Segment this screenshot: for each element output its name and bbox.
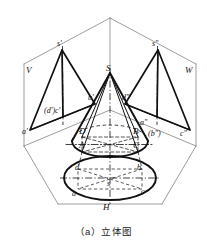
label-top-a: a: [72, 190, 76, 198]
label-front-dc: (d')c': [44, 107, 60, 115]
cone-generatrix-left: [72, 73, 110, 141]
label-side-c: c": [180, 130, 187, 138]
figure-caption: （a）立体图: [0, 224, 207, 238]
cone-generatrix-right: [110, 73, 148, 141]
label-apex-front: s': [57, 40, 62, 48]
label-side-d: d": [122, 94, 129, 102]
label-plane-h: H: [103, 203, 110, 212]
pyramid-edge-SA: [82, 73, 110, 152]
stereogram-figure: V W H s' s" S s a' b' (d')c' a" (b") c" …: [0, 0, 207, 242]
label-front-b: b': [88, 94, 94, 102]
front-base-edge-right: [63, 104, 95, 117]
h-plane-right-edge: [162, 146, 196, 204]
side-base-edge-left: [125, 104, 157, 117]
label-space-a: A: [79, 141, 85, 150]
label-top-b: b: [137, 164, 141, 172]
label-space-b: B: [133, 127, 139, 136]
label-apex-side: s": [152, 40, 158, 48]
label-side-a: a": [140, 119, 147, 127]
label-top-c: c: [141, 188, 145, 196]
h-plane-left-edge: [24, 146, 58, 204]
label-space-c: C: [133, 141, 139, 150]
label-side-b: (b"): [148, 130, 161, 138]
label-plane-w: W: [185, 66, 193, 75]
label-apex-space: S: [106, 64, 111, 73]
label-apex-top: s: [107, 180, 110, 188]
label-space-d: D: [79, 127, 86, 136]
label-top-d: d: [75, 164, 79, 172]
label-plane-v: V: [26, 66, 32, 75]
pyramid-edge-SD: [82, 73, 110, 137]
label-front-a: a': [22, 128, 28, 136]
